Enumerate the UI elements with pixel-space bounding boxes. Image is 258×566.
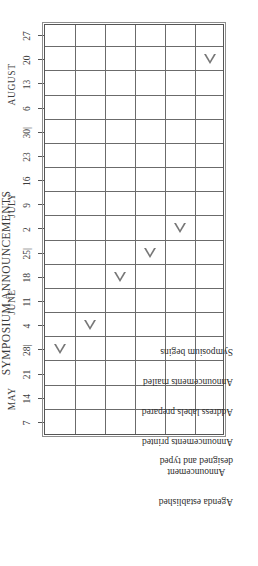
gridline-vertical — [45, 46, 223, 47]
task-label-row-4: Announcements mailed — [143, 376, 233, 387]
gantt-plot-area — [44, 24, 224, 435]
gridline-vertical — [45, 191, 223, 192]
gridline-vertical — [45, 70, 223, 71]
date-tick-label: 20 — [22, 56, 32, 66]
task-label-row-5: Symposium begins — [160, 346, 233, 357]
gridline-vertical — [45, 288, 223, 289]
date-tick-label: 27 — [22, 31, 32, 41]
date-tick-label: 30| — [22, 127, 32, 138]
gridline-vertical — [45, 312, 223, 313]
task-label-row-1: Announcementdesigned and typed — [160, 455, 233, 477]
gridline-horizontal — [135, 25, 136, 434]
gridline-vertical — [45, 119, 223, 120]
gridline-vertical — [45, 240, 223, 241]
date-tick-label: 28| — [22, 345, 32, 356]
gridline-vertical — [45, 167, 223, 168]
month-label-july: JULY — [7, 193, 17, 218]
month-label-may: MAY — [7, 387, 17, 410]
gridline-vertical — [45, 95, 223, 96]
gridline-horizontal — [195, 25, 196, 434]
gridline-horizontal — [75, 25, 76, 434]
date-tick-label: 11 — [22, 297, 32, 306]
chart-sheet: SYMPOSIUM ANNOUNCEMENTS MAYJUNEJULYAUGUS… — [0, 0, 258, 566]
gridline-vertical — [45, 264, 223, 265]
date-tick-label: 7 — [22, 421, 32, 426]
date-tick-label: 6 — [22, 106, 32, 111]
date-tick-label: 13 — [22, 80, 32, 90]
date-tick-label: 25| — [22, 248, 32, 259]
task-label-row-3: Address labels prepared — [142, 406, 233, 417]
gridline-vertical — [45, 360, 223, 361]
gridline-horizontal — [105, 25, 106, 434]
gridline-vertical — [45, 143, 223, 144]
date-tick-label: 9 — [22, 203, 32, 208]
date-tick-label: 2 — [22, 227, 32, 232]
gridline-vertical — [45, 336, 223, 337]
date-tick-label: 16 — [22, 176, 32, 186]
task-label-row-0: Agenda established — [159, 496, 233, 507]
rotated-chart-stage: SYMPOSIUM ANNOUNCEMENTS MAYJUNEJULYAUGUS… — [0, 0, 258, 566]
month-label-june: JUNE — [7, 289, 17, 315]
date-tick-label: 23 — [22, 152, 32, 162]
date-tick-label: 4 — [22, 324, 32, 329]
gridline-horizontal — [165, 25, 166, 434]
gridline-vertical — [45, 215, 223, 216]
date-tick-label: 14 — [22, 394, 32, 404]
task-label-row-2: Announcements printed — [142, 436, 233, 447]
date-tick-label: 18 — [22, 273, 32, 283]
date-tick-label: 21 — [22, 370, 32, 380]
month-label-august: AUGUST — [7, 63, 17, 105]
